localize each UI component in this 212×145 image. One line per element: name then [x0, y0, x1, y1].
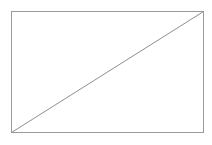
rectangle-with-diagonal-figure: [0, 0, 212, 145]
figure-canvas: [0, 0, 212, 145]
